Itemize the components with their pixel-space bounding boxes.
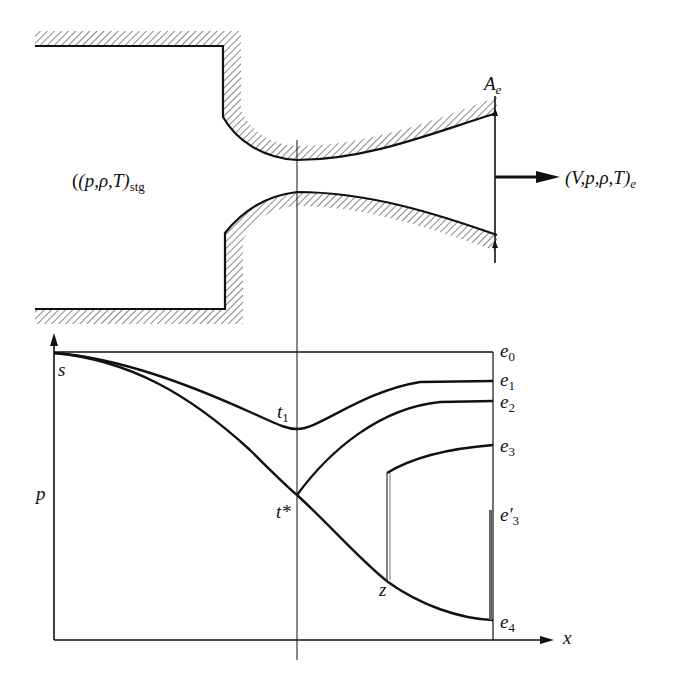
point-z: z	[379, 580, 386, 599]
y-axis-arrow-icon	[50, 333, 58, 346]
point-t1: t1	[277, 402, 289, 424]
point-e3: e3	[500, 436, 515, 458]
nozzle-upper-wall	[35, 31, 497, 160]
curve-e3	[387, 445, 493, 473]
curve-s-tstar	[54, 353, 297, 495]
nozzle-lower-wall	[35, 192, 497, 324]
point-s: s	[58, 360, 65, 379]
reservoir-label: ((p,ρ,T)stg	[72, 171, 145, 193]
point-e0: e0	[500, 341, 515, 363]
point-e2: e2	[500, 392, 515, 414]
exit-flow-label: (V,p,ρ,T)e	[565, 168, 636, 190]
exit-flow-arrow-icon	[495, 171, 560, 183]
point-e4: e4	[500, 612, 515, 634]
x-axis-arrow-icon	[540, 636, 554, 644]
x-axis-label: x	[563, 628, 571, 647]
point-e1: e1	[500, 370, 515, 392]
y-axis-label: p	[36, 484, 46, 503]
curve-e1	[54, 353, 493, 429]
point-e3-prime: e′3	[500, 505, 519, 527]
pressure-plot	[50, 333, 554, 644]
curve-e4	[297, 495, 493, 620]
shock-exit	[489, 510, 492, 620]
exit-area-label: Ae	[484, 74, 501, 96]
nozzle-diagram	[0, 0, 683, 674]
point-tstar: t*	[276, 502, 291, 521]
